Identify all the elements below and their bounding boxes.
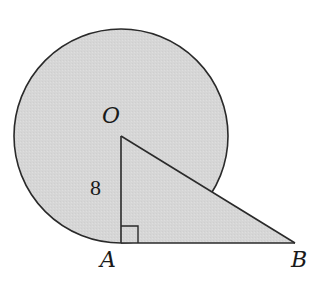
label-point-a: A: [98, 247, 116, 272]
geometry-figure: O 8 A B: [0, 0, 322, 281]
label-point-o: O: [102, 103, 120, 128]
label-point-b: B: [290, 247, 307, 272]
label-segment-oa: 8: [90, 175, 101, 200]
